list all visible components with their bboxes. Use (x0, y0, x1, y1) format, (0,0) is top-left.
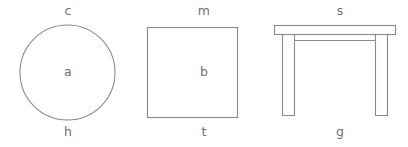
circle-bottom-label: h (0, 126, 136, 139)
table-bottom-label: g (272, 126, 408, 139)
figure-circle: c a h (0, 0, 136, 147)
figure-square: m b t (136, 0, 272, 147)
diagram-canvas: c a h m b t s g (0, 0, 408, 147)
square-center-label: b (136, 66, 272, 79)
figure-table: s g (272, 0, 408, 147)
circle-center-label: a (0, 66, 136, 79)
square-bottom-label: t (136, 126, 272, 139)
